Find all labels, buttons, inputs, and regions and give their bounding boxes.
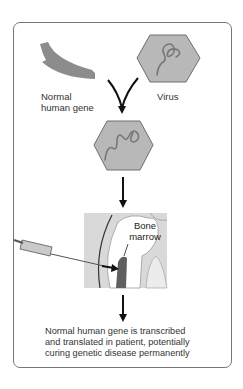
down-arrow-icon — [119, 177, 127, 208]
outcome-caption: Normal human gene is transcribed and tra… — [45, 326, 215, 359]
caption-line2: and translated in patient, potentially — [45, 337, 215, 348]
gene-label-line1: Normal — [41, 91, 94, 102]
virus-label: Virus — [157, 91, 178, 102]
down-arrow-icon — [119, 295, 127, 322]
bone-marrow-label-line2: marrow — [125, 231, 165, 242]
bone-marrow-label-line1: Bone — [125, 220, 165, 231]
gene-label: Normal human gene — [41, 91, 94, 113]
bone-marrow-label: Bone marrow — [125, 220, 165, 242]
virus-icon — [137, 35, 200, 82]
caption-line3: curing genetic disease permanently — [45, 348, 215, 359]
gene-label-line2: human gene — [41, 102, 94, 113]
merge-arrow-icon — [108, 78, 138, 114]
gene-segment-icon — [40, 42, 95, 79]
caption-line1: Normal human gene is transcribed — [45, 326, 215, 337]
recombinant-virus-icon — [94, 121, 153, 170]
